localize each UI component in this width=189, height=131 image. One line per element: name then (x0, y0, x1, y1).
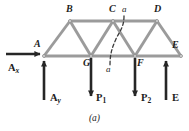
figure-caption: (a) (0, 113, 189, 123)
force-label-ax-subscript: x (16, 66, 20, 75)
force-label-ay: Ay (50, 93, 61, 104)
truss-figure: A B C D E F G a a Ax Ay P1 P2 E (a) (0, 0, 189, 131)
force-label-ay-symbol: A (50, 92, 58, 103)
joint-label-F: F (137, 58, 144, 68)
section-label-a-bottom: a (106, 65, 111, 74)
force-label-ax: Ax (8, 63, 19, 74)
joint-B (69, 20, 72, 23)
force-label-ax-symbol: A (8, 62, 16, 73)
joint-label-E: E (172, 40, 179, 50)
truss-diagonals (44, 21, 181, 56)
section-label-a-top: a (122, 5, 127, 14)
force-label-e: E (172, 93, 179, 104)
force-label-p2-subscript: 2 (147, 96, 151, 105)
member-FD (135, 21, 157, 56)
force-label-p1-subscript: 1 (102, 96, 106, 105)
force-label-p2: P2 (141, 93, 151, 104)
joint-label-B: B (66, 4, 73, 14)
joint-label-C: C (109, 4, 116, 14)
member-BG (70, 21, 91, 56)
joint-label-G: G (83, 58, 90, 68)
joint-label-D: D (154, 4, 161, 14)
force-label-ay-subscript: y (58, 96, 61, 105)
member-AB (44, 21, 70, 56)
force-label-e-symbol: E (172, 92, 179, 103)
joint-E (180, 55, 183, 58)
joint-C (112, 20, 115, 23)
joint-D (156, 20, 159, 23)
joint-A (43, 55, 46, 58)
force-label-p1: P1 (96, 93, 106, 104)
joint-label-A: A (34, 39, 41, 49)
truss-diagram-svg (0, 0, 189, 131)
member-GC (91, 21, 113, 56)
